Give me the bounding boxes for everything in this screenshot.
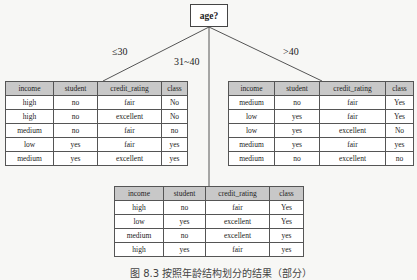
cell: yes — [275, 124, 320, 138]
cell: no — [54, 124, 98, 138]
col-student: student — [54, 82, 98, 96]
table-age-le30: income student credit_rating class highn… — [5, 81, 188, 166]
cell: yes — [275, 138, 320, 152]
table-age-31-40: income student credit_rating class highn… — [114, 186, 304, 257]
cell: yes — [162, 138, 188, 152]
table-row: mediumnofairno — [6, 124, 188, 138]
cell: no — [162, 124, 188, 138]
cell: medium — [115, 229, 164, 243]
cell: excellent — [98, 110, 162, 124]
col-income: income — [6, 82, 54, 96]
cell: no — [54, 110, 98, 124]
table-row: mediumnoexcellentyes — [115, 229, 304, 243]
cell: yes — [164, 243, 206, 257]
cell: high — [6, 110, 54, 124]
cell: yes — [54, 152, 98, 166]
table-row: lowyesfairYes — [229, 110, 414, 124]
cell: high — [6, 96, 54, 110]
table-row: highnofairYes — [115, 201, 304, 215]
cell: low — [229, 110, 275, 124]
cell: Yes — [270, 215, 304, 229]
table-row: mediumnofairYes — [229, 96, 414, 110]
cell: excellent — [98, 152, 162, 166]
cell: fair — [98, 138, 162, 152]
col-student: student — [275, 82, 320, 96]
cell: medium — [6, 152, 54, 166]
root-node-age: age? — [190, 4, 228, 27]
cell: no — [275, 152, 320, 166]
cell: No — [162, 110, 188, 124]
cell: yes — [275, 110, 320, 124]
cell: excellent — [320, 152, 386, 166]
cell: low — [229, 124, 275, 138]
cell: fair — [206, 243, 270, 257]
table-row: highnoexcellentNo — [6, 110, 188, 124]
cell: high — [115, 201, 164, 215]
cell: yes — [386, 138, 414, 152]
cell: yes — [164, 215, 206, 229]
col-income: income — [115, 187, 164, 201]
col-credit-rating: credit_rating — [206, 187, 270, 201]
cell: high — [115, 243, 164, 257]
table-header-row: income student credit_rating class — [6, 82, 188, 96]
table-row: lowyesexcellentNo — [229, 124, 414, 138]
table-header-row: income student credit_rating class — [229, 82, 414, 96]
cell: No — [162, 96, 188, 110]
edge-right — [209, 27, 322, 81]
cell: fair — [320, 110, 386, 124]
edge-label-le30: ≤30 — [112, 46, 128, 57]
cell: low — [115, 215, 164, 229]
cell: fair — [206, 201, 270, 215]
figure-caption: 图 8.3 按照年龄结构划分的结果（部分） — [130, 265, 290, 280]
cell: medium — [229, 138, 275, 152]
cell: yes — [54, 138, 98, 152]
col-income: income — [229, 82, 275, 96]
cell: excellent — [206, 229, 270, 243]
cell: fair — [98, 124, 162, 138]
cell: Yes — [386, 110, 414, 124]
col-class: class — [386, 82, 414, 96]
edge-label-31-40: 31~40 — [174, 56, 199, 67]
cell: Yes — [386, 96, 414, 110]
cell: No — [386, 124, 414, 138]
col-class: class — [162, 82, 188, 96]
cell: no — [275, 96, 320, 110]
table-row: lowyesexcellentYes — [115, 215, 304, 229]
table-row: mediumyesfairyes — [229, 138, 414, 152]
table-row: lowyesfairyes — [6, 138, 188, 152]
cell: excellent — [320, 124, 386, 138]
cell: no — [164, 201, 206, 215]
cell: low — [6, 138, 54, 152]
edge-label-gt40: >40 — [283, 46, 299, 57]
cell: yes — [270, 229, 304, 243]
table-age-gt40: income student credit_rating class mediu… — [228, 81, 414, 166]
cell: fair — [320, 96, 386, 110]
col-credit-rating: credit_rating — [98, 82, 162, 96]
cell: medium — [229, 152, 275, 166]
cell: medium — [6, 124, 54, 138]
col-class: class — [270, 187, 304, 201]
cell: Yes — [270, 201, 304, 215]
cell: medium — [229, 96, 275, 110]
cell: fair — [320, 138, 386, 152]
table-row: mediumyesexcellentyes — [6, 152, 188, 166]
cell: fair — [98, 96, 162, 110]
table-row: mediumnoexcellentno — [229, 152, 414, 166]
cell: excellent — [206, 215, 270, 229]
cell: no — [54, 96, 98, 110]
table-row: highyesfairyes — [115, 243, 304, 257]
col-credit-rating: credit_rating — [320, 82, 386, 96]
table-row: highnofairNo — [6, 96, 188, 110]
cell: yes — [270, 243, 304, 257]
cell: no — [386, 152, 414, 166]
table-header-row: income student credit_rating class — [115, 187, 304, 201]
col-student: student — [164, 187, 206, 201]
cell: no — [164, 229, 206, 243]
cell: yes — [162, 152, 188, 166]
